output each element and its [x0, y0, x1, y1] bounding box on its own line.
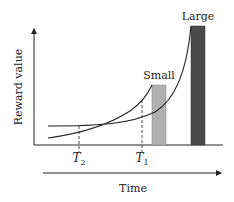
y-axis-label: Reward value [12, 49, 25, 125]
discount-curve-small [48, 85, 152, 138]
large-reward-bar [191, 26, 205, 145]
reward-discount-diagram: Reward value Small Large T2 T1 Time [0, 0, 234, 202]
x-axis-label: Time [119, 182, 147, 195]
small-reward-label: Small [143, 69, 175, 82]
large-reward-label: Large [182, 10, 215, 23]
small-reward-bar [152, 85, 166, 145]
t2-label: T2 [72, 151, 85, 167]
t1-label: T1 [135, 151, 148, 167]
